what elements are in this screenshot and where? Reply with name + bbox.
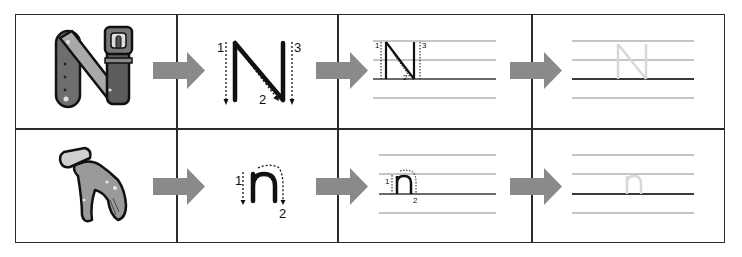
trace-practice-lowercase[interactable]: [0, 0, 742, 257]
